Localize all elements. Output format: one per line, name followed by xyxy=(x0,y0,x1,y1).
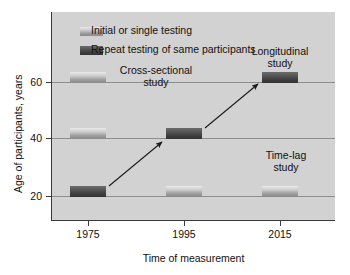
y-tick-mark-60 xyxy=(46,82,51,83)
x-tick-label-2015: 2015 xyxy=(257,229,303,240)
arrow-longitudinal-1995-2015 xyxy=(205,84,258,128)
annotation-cross-sectional: Cross-sectional study xyxy=(110,64,202,88)
legend-label-repeat: Repeat testing of same participants xyxy=(91,44,256,55)
x-axis-title: Time of measurement xyxy=(52,252,335,264)
x-tick-label-1975: 1975 xyxy=(65,229,111,240)
x-axis-line xyxy=(51,220,335,221)
annotation-cross-sectional-line1: Cross-sectional xyxy=(110,64,202,76)
annotation-cross-sectional-line2: study xyxy=(110,76,202,88)
y-tick-mark-40 xyxy=(46,138,51,139)
y-tick-mark-20 xyxy=(46,196,51,197)
y-axis-title: Age of participants, years xyxy=(12,75,24,193)
annotation-longitudinal-line2: study xyxy=(234,57,326,69)
x-tick-mark-1995 xyxy=(184,221,185,226)
x-tick-mark-1975 xyxy=(88,221,89,226)
annotation-time-lag-line1: Time-lag xyxy=(240,149,332,161)
x-tick-label-1995: 1995 xyxy=(161,229,207,240)
annotation-time-lag: Time-lag study xyxy=(240,149,332,173)
legend-label-initial: Initial or single testing xyxy=(91,25,192,36)
y-axis-line xyxy=(51,12,52,221)
x-tick-mark-2015 xyxy=(280,221,281,226)
arrow-longitudinal-1975-1995 xyxy=(109,142,162,186)
annotation-time-lag-line2: study xyxy=(240,161,332,173)
figure-container: Cross-sectional study Longitudinal study… xyxy=(0,0,350,275)
